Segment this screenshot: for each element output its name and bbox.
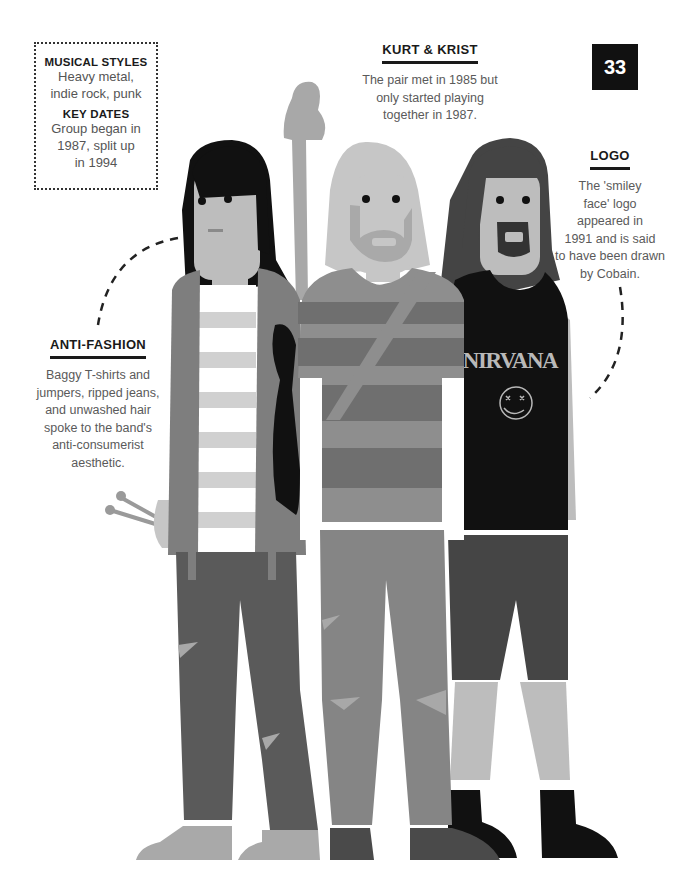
text-line: The 'smiley	[548, 178, 672, 196]
text-line: and unwashed hair	[28, 402, 168, 420]
text-line: by Cobain.	[548, 266, 672, 284]
anti-fashion-connector	[98, 238, 178, 325]
kurt-krist-callout: KURT & KRIST The pair met in 1985 but on…	[350, 40, 510, 125]
logo-heading: LOGO	[590, 148, 629, 170]
text-line: to have been drawn	[548, 248, 672, 266]
text-line: 1987, split up	[36, 137, 156, 154]
kurt-krist-text: The pair met in 1985 but only started pl…	[350, 72, 510, 125]
text-line: spoke to the band's	[28, 420, 168, 438]
text-line: appeared in	[548, 213, 672, 231]
text-line: Baggy T-shirts and	[28, 367, 168, 385]
kurt-krist-heading: KURT & KRIST	[382, 42, 477, 64]
text-line: Heavy metal,	[36, 68, 156, 85]
key-dates-text: Group began in 1987, split up in 1994	[36, 120, 156, 171]
text-line: jumpers, ripped jeans,	[28, 385, 168, 403]
logo-text: The 'smiley face' logo appeared in 1991 …	[548, 178, 672, 283]
logo-callout: LOGO The 'smiley face' logo appeared in …	[548, 146, 672, 283]
anti-fashion-text: Baggy T-shirts and jumpers, ripped jeans…	[28, 367, 168, 472]
logo-connector	[590, 287, 623, 398]
text-line: aesthetic.	[28, 455, 168, 473]
musical-styles-heading: MUSICAL STYLES	[36, 56, 156, 68]
text-line: Group began in	[36, 120, 156, 137]
guitar-headstock	[284, 82, 326, 300]
text-line: face' logo	[548, 196, 672, 214]
text-line: only started playing	[350, 90, 510, 108]
text-line: 1991 and is said	[548, 231, 672, 249]
text-line: anti-consumerist	[28, 437, 168, 455]
key-dates-heading: KEY DATES	[36, 108, 156, 120]
anti-fashion-callout: ANTI-FASHION Baggy T-shirts and jumpers,…	[28, 335, 168, 472]
musical-styles-text: Heavy metal, indie rock, punk	[36, 68, 156, 102]
anti-fashion-heading: ANTI-FASHION	[50, 337, 146, 359]
page-number-badge: 33	[592, 44, 638, 90]
text-line: in 1994	[36, 154, 156, 171]
info-box: MUSICAL STYLES Heavy metal, indie rock, …	[34, 42, 158, 190]
text-line: The pair met in 1985 but	[350, 72, 510, 90]
left-figure	[105, 140, 320, 860]
nirvana-shirt-logo: NIRVANA	[463, 348, 559, 373]
text-line: indie rock, punk	[36, 85, 156, 102]
text-line: together in 1987.	[350, 107, 510, 125]
